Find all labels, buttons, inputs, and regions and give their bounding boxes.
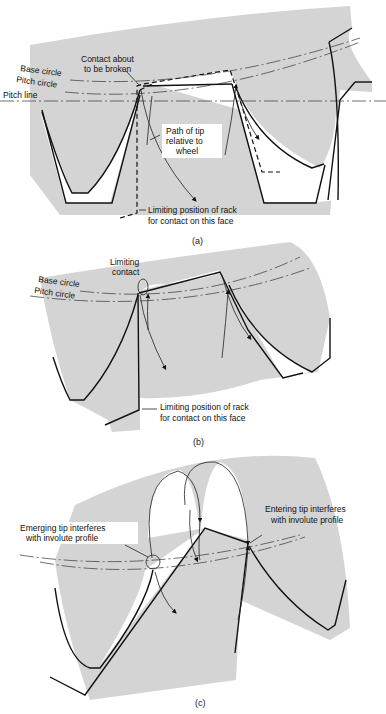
label-emerging-1: Emerging tip interferes <box>20 523 106 533</box>
caption-a: (a) <box>192 236 203 246</box>
label-entering-1: Entering tip interferes <box>265 504 346 514</box>
label-path-2: relative to <box>166 136 203 146</box>
label-limit-b-1: Limiting position of rack <box>160 402 250 412</box>
label-contact-2: to be broken <box>84 64 132 74</box>
panel-a: Contact about to be broken Base circle P… <box>0 6 386 246</box>
label-pitch-line: Pitch line <box>3 90 38 100</box>
label-contact-1: Contact about <box>81 54 135 64</box>
label-limiting-2: contact <box>112 267 140 277</box>
label-limiting-1: Limiting <box>110 257 140 267</box>
panel-c: Emerging tip interferes with involute pr… <box>18 456 350 708</box>
caption-b: (b) <box>193 437 204 447</box>
gear-interference-diagram: Contact about to be broken Base circle P… <box>0 0 386 714</box>
wheel-body-c <box>55 456 350 700</box>
label-entering-2: with involute profile <box>270 515 344 525</box>
label-path-3: wheel <box>175 146 198 156</box>
caption-c: (c) <box>195 698 206 708</box>
label-limit-b-2: for contact on this face <box>160 413 246 423</box>
label-path-1: Path of tip <box>166 126 205 136</box>
label-limit-a-1: Limiting position of rack <box>148 205 238 215</box>
panel-b: Limiting contact Base circle Pitch circl… <box>30 242 330 447</box>
label-limit-a-2: for contact on this face <box>148 216 234 226</box>
label-emerging-2: with involute profile <box>25 533 99 543</box>
